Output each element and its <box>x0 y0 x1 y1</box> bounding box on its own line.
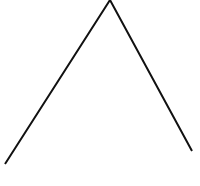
diagram-canvas <box>0 0 200 186</box>
angle-polyline <box>5 0 192 164</box>
angle-diagram <box>0 0 200 186</box>
